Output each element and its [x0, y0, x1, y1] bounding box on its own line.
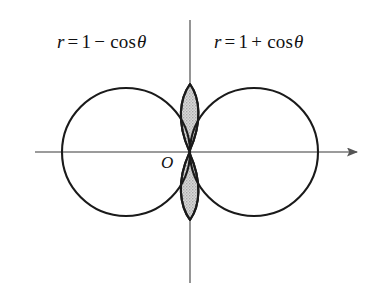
- right-label-equals: =: [222, 31, 239, 52]
- axes-group: [35, 20, 357, 283]
- left-curve-equation-label: r=1−cosθ: [57, 31, 147, 53]
- right-label-one: 1: [239, 31, 249, 52]
- left-label-theta: θ: [136, 31, 147, 52]
- right-label-theta: θ: [293, 31, 304, 52]
- polar-curves-figure: r=1−cosθ r=1+cosθ O: [0, 0, 378, 296]
- origin-label: O: [161, 153, 173, 173]
- left-label-operator: −: [91, 31, 108, 52]
- left-label-equals: =: [65, 31, 82, 52]
- right-label-operator: +: [248, 31, 265, 52]
- right-label-variable: r: [214, 31, 222, 52]
- right-curve-equation-label: r=1+cosθ: [214, 31, 304, 53]
- left-label-cos: cos: [108, 31, 136, 52]
- left-label-variable: r: [57, 31, 65, 52]
- left-label-one: 1: [82, 31, 92, 52]
- right-label-cos: cos: [265, 31, 293, 52]
